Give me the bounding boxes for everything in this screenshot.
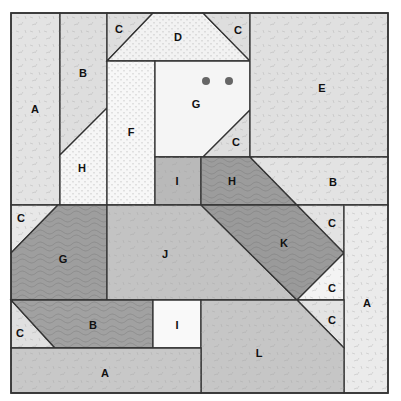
piece-e: E <box>250 13 388 157</box>
piece-label: I <box>175 175 178 187</box>
left-eye-dot <box>202 77 210 85</box>
piece-label: L <box>256 347 263 359</box>
piece-label: G <box>59 253 68 265</box>
piece-label: C <box>115 23 123 35</box>
piece-label: G <box>192 98 201 110</box>
piece-label: H <box>228 175 236 187</box>
piece-label: C <box>328 282 336 294</box>
quilt-block-diagram: ABHCDCFGCEIHBCGJKCCACBICLA <box>0 0 401 401</box>
piece-a-bottom: A <box>11 348 201 393</box>
piece-label: J <box>162 248 168 260</box>
piece-label: A <box>101 367 109 379</box>
piece-label: C <box>16 327 24 339</box>
piece-a-right: A <box>344 205 388 393</box>
piece-label: C <box>17 212 25 224</box>
right-eye-dot <box>225 77 233 85</box>
piece-label: A <box>31 103 39 115</box>
piece-label: C <box>328 314 336 326</box>
piece-label: B <box>329 176 337 188</box>
piece-label: I <box>175 319 178 331</box>
piece-i-mid: I <box>155 157 201 205</box>
piece-label: F <box>128 126 135 138</box>
piece-a-left: A <box>11 13 60 205</box>
piece-label: B <box>79 67 87 79</box>
piece-label: C <box>232 136 240 148</box>
piece-label: E <box>318 82 325 94</box>
piece-i-white: I <box>153 300 201 348</box>
piece-label: C <box>328 217 336 229</box>
piece-label: D <box>174 31 182 43</box>
piece-f: F <box>107 61 155 205</box>
piece-label: C <box>234 24 242 36</box>
piece-label: A <box>363 297 371 309</box>
piece-label: B <box>89 319 97 331</box>
piece-label: K <box>280 237 288 249</box>
piece-label: H <box>78 162 86 174</box>
quilt-pieces: ABHCDCFGCEIHBCGJKCCACBICLA <box>11 13 388 393</box>
